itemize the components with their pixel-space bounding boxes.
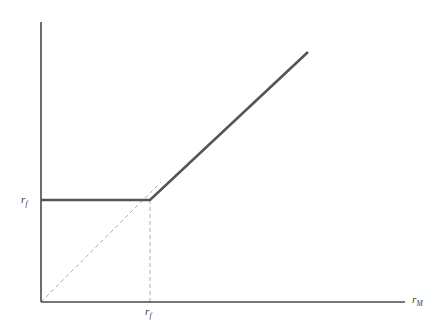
x-axis-tick-label: rf — [145, 306, 151, 317]
x-axis-name-symbol: r — [412, 293, 416, 305]
y-axis-tick-symbol: r — [21, 193, 25, 205]
x-axis-name-subscript: M — [417, 299, 423, 308]
payoff-diagram-figure: rf rf rM — [0, 0, 447, 329]
payoff-line — [41, 52, 308, 200]
x-axis-name-label: rM — [412, 294, 423, 305]
y-axis-tick-label: rf — [21, 194, 27, 205]
plot-canvas — [0, 0, 447, 329]
x-axis-tick-subscript: f — [150, 311, 152, 320]
x-axis-tick-symbol: r — [145, 305, 149, 317]
y-axis-tick-subscript: f — [26, 199, 28, 208]
